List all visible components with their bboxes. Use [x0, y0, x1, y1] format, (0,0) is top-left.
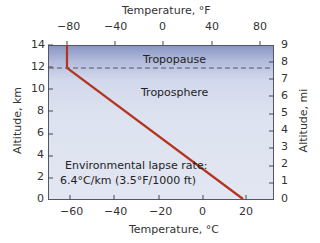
tropopause-label: Tropopause [143, 53, 206, 66]
chart-overlay [0, 0, 320, 243]
troposphere-label: Troposphere [141, 86, 208, 99]
lapse-rate-line2: 6.4°C/km (3.5°F/1000 ft) [60, 174, 196, 188]
lapse-rate-line1: Environmental lapse rate: [65, 159, 207, 173]
